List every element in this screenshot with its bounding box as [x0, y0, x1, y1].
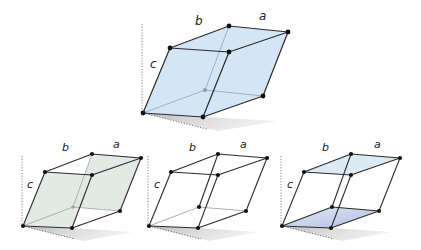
- label-a-ab: a: [374, 139, 381, 150]
- label-c-ab: c: [287, 179, 293, 190]
- unit-cell-ac-face: [21, 152, 143, 241]
- label-c-ac: c: [27, 179, 33, 190]
- label-c-bc: c: [154, 179, 160, 190]
- unit-cell-figure: b a c b a c b a c b a c: [0, 0, 421, 250]
- label-b-ac: b: [62, 142, 69, 153]
- label-b-main: b: [195, 15, 203, 27]
- cell-shadow: [143, 113, 278, 131]
- unit-cell-ab-face: [280, 152, 402, 241]
- label-b-ab: b: [322, 142, 329, 153]
- unit-cell-bc-face: [147, 152, 269, 241]
- label-c-main: c: [150, 58, 157, 70]
- label-a-main: a: [259, 10, 266, 22]
- label-a-bc: a: [240, 139, 247, 150]
- label-a-ac: a: [113, 139, 120, 150]
- label-b-bc: b: [189, 142, 196, 153]
- main-unit-cell: [141, 24, 291, 131]
